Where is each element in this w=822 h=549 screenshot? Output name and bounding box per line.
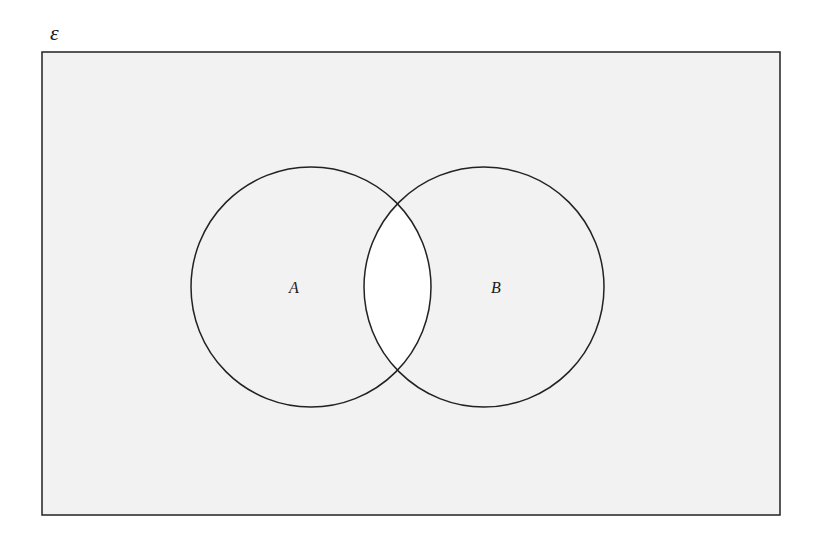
set-a-label: A <box>288 279 299 296</box>
venn-diagram: ε A B <box>0 0 822 549</box>
universal-set-label: ε <box>50 20 59 45</box>
set-b-label: B <box>491 279 501 296</box>
